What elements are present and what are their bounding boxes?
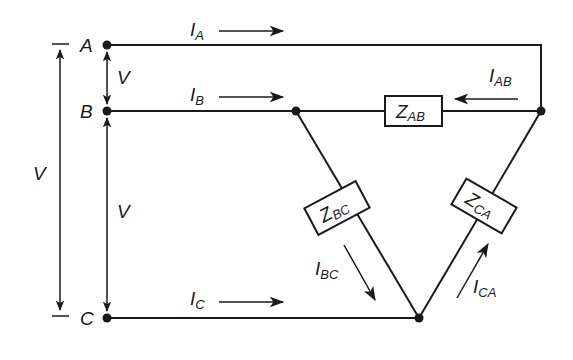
current-ica-sub: CA: [478, 285, 496, 300]
current-ic-sub: C: [195, 297, 205, 312]
current-ia-sub: A: [194, 28, 204, 43]
current-ic-label: IC: [190, 288, 205, 312]
impedance-zab: ZAB: [385, 96, 442, 126]
current-ibc-arrow: [344, 245, 375, 300]
voltage-ac-label: V: [33, 163, 48, 184]
junction-b-dot: [292, 107, 301, 116]
impedance-zca: ZCA: [451, 179, 516, 234]
line-a-wire: [107, 45, 541, 111]
voltage-ab-label: V: [117, 67, 132, 88]
current-ib-sub: B: [195, 93, 204, 108]
current-iab-label: IAB: [489, 65, 512, 89]
current-ib-label: IB: [190, 84, 204, 108]
node-b-label: B: [80, 101, 93, 122]
impedance-zbc: ZBC: [304, 181, 369, 235]
node-a-label: A: [79, 35, 93, 56]
current-ia-label: IA: [190, 19, 204, 43]
voltage-indicators: [52, 44, 107, 316]
current-iab-sub: AB: [493, 74, 512, 89]
node-b-dot: [103, 107, 112, 116]
junction-bottom-dot: [415, 314, 424, 323]
node-c-label: C: [80, 308, 94, 329]
node-c-dot: [103, 314, 112, 323]
delta-circuit-diagram: A B C V V V IA IB IC IAB IBC ICA: [0, 0, 573, 360]
current-ica-label: ICA: [473, 276, 496, 300]
voltage-bc-label: V: [117, 201, 132, 222]
node-a-dot: [103, 41, 112, 50]
junction-right-dot: [537, 107, 546, 116]
current-ibc-sub: BC: [320, 267, 339, 282]
impedance-zab-sub: AB: [407, 109, 426, 124]
current-ibc-label: IBC: [315, 258, 339, 282]
